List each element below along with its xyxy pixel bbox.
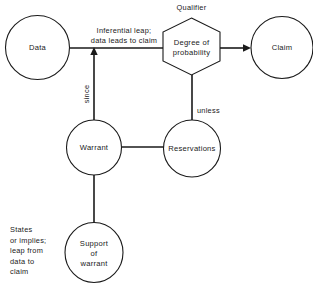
states-caption-line1: States <box>10 225 33 234</box>
unless-label: unless <box>197 106 220 115</box>
node-qualifier-label-line2: probability <box>173 48 210 57</box>
states-caption-line4: data to <box>10 257 34 266</box>
node-claim-label: Claim <box>272 43 293 52</box>
inferential-leap-label-line2: data leads to claim <box>91 36 157 45</box>
inferential-leap-label-line1: Inferential leap; <box>97 26 152 35</box>
node-support-label-line1: Support <box>80 239 109 248</box>
toulmin-diagram: Data Degree of probability Qualifier Cla… <box>0 0 313 285</box>
node-warrant-label: Warrant <box>80 143 109 152</box>
diagram-canvas: Data Degree of probability Qualifier Cla… <box>0 0 313 285</box>
states-caption-line3: leap from <box>10 246 43 255</box>
node-qualifier-label-line1: Degree of <box>174 38 210 47</box>
node-support-label-line2: of <box>91 249 98 258</box>
node-data-label: Data <box>29 43 47 52</box>
states-caption-line2: or implies; <box>10 236 46 245</box>
states-caption-line5: claim <box>10 267 29 276</box>
qualifier-caption: Qualifier <box>177 3 207 12</box>
since-label: since <box>82 85 91 104</box>
node-reservations-label: Reservations <box>168 144 215 153</box>
arrowhead-to-claim <box>243 44 251 52</box>
node-support-label-line3: warrant <box>79 259 108 268</box>
